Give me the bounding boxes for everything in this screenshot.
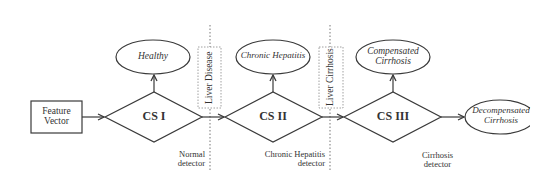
- outcome-label-healthy: Healthy: [116, 51, 190, 61]
- detector-normal-line2: detector: [150, 159, 205, 168]
- classifier-label-cs1: CS I: [124, 110, 184, 123]
- outcome-decompensated-line2: Cirrhosis: [466, 116, 535, 126]
- detector-label-chronic-hepatitis: Chronic Hepatitis detector: [240, 150, 325, 169]
- outcome-label-chronic-hepatitis: Chronic Hepatitis: [234, 51, 312, 61]
- detector-cirrhosis-line2: detector: [410, 160, 465, 169]
- detector-chronic-line2: detector: [240, 159, 325, 168]
- feature-vector-line1: Feature: [31, 106, 82, 116]
- feature-vector-line2: Vector: [31, 116, 82, 126]
- classifier-label-cs3: CS III: [363, 110, 423, 123]
- outcome-chronic-hepatitis-line1: Chronic Hepatitis: [234, 51, 312, 61]
- outcome-compensated-line2: Cirrhosis: [356, 56, 430, 66]
- outcome-label-decompensated-cirrhosis: Decompensated Cirrhosis: [466, 106, 535, 126]
- detector-label-cirrhosis: Cirrhosis detector: [410, 151, 465, 170]
- classifier-label-cs2: CS II: [243, 110, 303, 123]
- boundary-label-liver-disease: Liver Disease: [202, 49, 217, 106]
- outcome-label-compensated-cirrhosis: Compensated Cirrhosis: [356, 46, 430, 67]
- detector-label-normal: Normal detector: [150, 150, 205, 169]
- outcome-compensated-line1: Compensated: [356, 46, 430, 56]
- outcome-healthy-line1: Healthy: [116, 51, 190, 61]
- boundary-label-liver-cirrhosis: Liver Cirrhosis: [323, 49, 338, 106]
- feature-vector-label: Feature Vector: [31, 106, 82, 127]
